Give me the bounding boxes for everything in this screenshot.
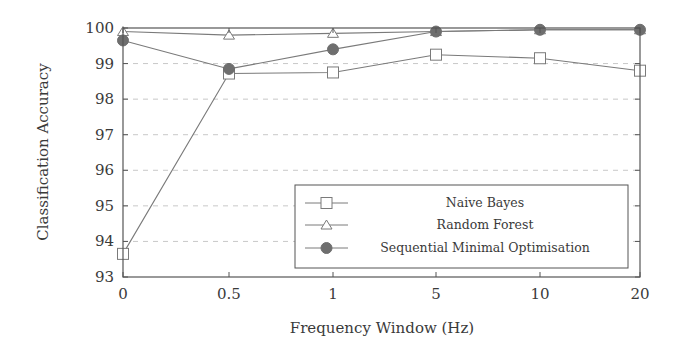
x-tick-label: 1 — [328, 285, 338, 303]
data-point — [224, 63, 235, 74]
legend: Naive Bayes Random Forest Sequential Min… — [295, 185, 628, 268]
data-point — [328, 44, 339, 55]
data-point — [535, 53, 546, 64]
x-axis-label: Frequency Window (Hz) — [290, 319, 474, 337]
y-axis-label: Classification Accuracy — [34, 63, 52, 241]
square-marker-icon — [321, 198, 332, 209]
series-random-forest — [118, 25, 646, 39]
series-sequential-minimal-optimisation — [118, 24, 646, 74]
line-chart: 93949596979899100 00.5151020 Frequency W… — [0, 0, 695, 360]
legend-label: Sequential Minimal Optimisation — [380, 240, 590, 255]
y-tick-label: 95 — [95, 197, 114, 215]
legend-label: Random Forest — [437, 217, 534, 232]
x-tick-label: 20 — [630, 285, 649, 303]
x-tick-label: 0 — [118, 285, 128, 303]
circle-marker-icon — [321, 243, 332, 254]
data-point — [431, 49, 442, 60]
y-tick-label: 97 — [95, 126, 114, 144]
x-tick-label: 5 — [431, 285, 441, 303]
y-tick-label: 96 — [95, 161, 114, 179]
y-tick-label: 94 — [95, 232, 114, 250]
y-tick-label: 93 — [95, 268, 114, 286]
y-tick-label: 98 — [95, 90, 114, 108]
y-tick-label: 99 — [95, 55, 114, 73]
y-tick-label: 100 — [85, 19, 114, 37]
legend-label: Naive Bayes — [446, 195, 524, 210]
x-tick-label: 10 — [530, 285, 549, 303]
data-point — [328, 67, 339, 78]
x-tick-label: 0.5 — [217, 285, 241, 303]
